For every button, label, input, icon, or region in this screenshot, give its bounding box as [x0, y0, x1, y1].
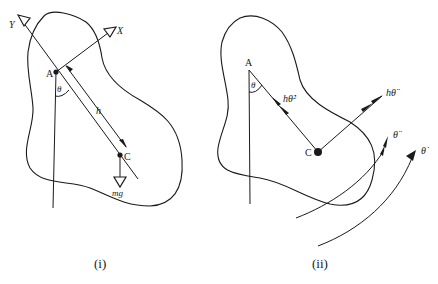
label-tangential: hθ̈ — [386, 87, 400, 98]
label-theta: θ — [251, 80, 256, 90]
body-outline — [26, 12, 182, 206]
label-angular-vel: θ̇ — [421, 145, 429, 156]
centripetal-arrow-icon-2 — [280, 106, 289, 115]
tangential-arrow-icon — [371, 95, 383, 104]
label-c: C — [305, 147, 312, 158]
panel-ii: A C θ hθ̇² hθ̈ θ̈ θ̇ (ii) — [218, 16, 429, 271]
weight-arrow-icon — [114, 177, 126, 187]
label-centripetal: hθ̇² — [283, 93, 297, 104]
panel-i: A C Y X θ h mg (i) — [9, 12, 182, 271]
angular-vel-arrow-icon — [406, 150, 416, 161]
label-theta: θ — [57, 84, 62, 94]
body-outline — [218, 16, 375, 205]
angular-vel-curve — [318, 158, 412, 246]
angular-accel-arrow-icon — [383, 136, 388, 148]
point-a — [53, 69, 58, 74]
label-mg: mg — [112, 188, 123, 198]
vertical-line — [249, 70, 250, 204]
label-h: h — [96, 105, 101, 116]
label-a: A — [46, 68, 54, 79]
x-axis-line — [56, 33, 108, 72]
centripetal-arrow-icon — [272, 97, 281, 106]
x-axis-arrow-icon — [104, 27, 116, 37]
label-c: C — [124, 151, 131, 162]
label-x: X — [116, 25, 124, 36]
point-c — [314, 148, 322, 156]
label-a: A — [245, 57, 253, 68]
h-arrow-top-icon — [66, 65, 73, 72]
tangential-line — [318, 96, 382, 152]
vertical-line — [53, 72, 56, 208]
y-axis-arrow-icon — [18, 15, 30, 26]
label-y: Y — [9, 19, 16, 30]
label-angular-accel: θ̈ — [393, 129, 402, 140]
h-arrow-bottom-icon — [119, 139, 127, 148]
caption-i: (i) — [94, 256, 106, 271]
caption-ii: (ii) — [312, 256, 328, 271]
diagram-canvas: A C Y X θ h mg (i) A C θ — [0, 0, 438, 284]
tangential-arrow-icon-2 — [361, 103, 373, 112]
